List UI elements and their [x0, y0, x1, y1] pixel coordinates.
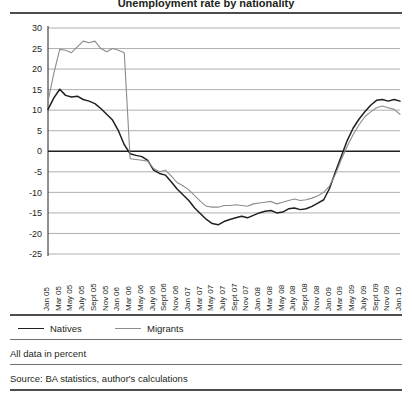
y-tick-label: 5	[37, 126, 42, 136]
y-tick-label: -10	[29, 188, 42, 198]
x-tick-label: Mar 06	[125, 286, 133, 311]
x-tick-label: May 07	[207, 285, 215, 311]
x-tick-label: May 06	[137, 285, 145, 311]
legend-item-natives[interactable]: Natives	[18, 318, 82, 338]
y-tick-label: -25	[29, 249, 42, 259]
y-tick-label: -5	[34, 167, 42, 177]
x-tick-label: Sept 08	[301, 283, 309, 311]
x-tick-label: Mar 05	[55, 286, 63, 311]
legend-top-rule	[10, 314, 402, 316]
x-tick-label: Jan 10	[395, 287, 403, 311]
figure-container: Unemployment rate by nationality 3025201…	[0, 0, 412, 399]
chart-plot-area: 302520151050-5-10-15-20-25	[0, 16, 412, 266]
legend-label: Natives	[50, 323, 82, 334]
x-tick-label: Mar 08	[266, 286, 274, 311]
y-axis-tick-labels: 302520151050-5-10-15-20-25	[29, 23, 42, 259]
y-tick-label: 25	[32, 44, 42, 54]
series-line-natives	[48, 89, 400, 225]
x-tick-label: Jan 07	[184, 287, 192, 311]
y-tick-label: 15	[32, 85, 42, 95]
legend-item-migrants[interactable]: Migrants	[115, 318, 183, 338]
x-tick-label: May 08	[278, 285, 286, 311]
line-chart-svg: 302520151050-5-10-15-20-25	[0, 16, 412, 266]
legend-line-swatch	[115, 328, 141, 329]
note-units-text: All data in percent	[10, 348, 86, 359]
y-tick-label: -15	[29, 208, 42, 218]
x-tick-label: May 05	[66, 285, 74, 311]
x-tick-label: Sept 05	[90, 283, 98, 311]
y-tick-label: 30	[32, 23, 42, 33]
y-tick-label: -20	[29, 229, 42, 239]
units-bottom-rule	[10, 364, 402, 365]
x-tick-label: July 05	[78, 286, 86, 311]
x-tick-label: July 08	[289, 286, 297, 311]
x-tick-label: Nov 07	[242, 286, 250, 311]
x-tick-label: Sept 06	[160, 283, 168, 311]
x-tick-label: Nov 09	[383, 286, 391, 311]
x-tick-label: Jan 08	[254, 287, 262, 311]
x-tick-label: Mar 09	[336, 286, 344, 311]
legend-label: Migrants	[147, 323, 183, 334]
x-axis-tick-labels: Jan 05Mar 05May 05July 05Sept 05Nov 05Ja…	[0, 263, 412, 311]
x-tick-label: Nov 08	[313, 286, 321, 311]
figure-title: Unemployment rate by nationality	[10, 0, 402, 10]
x-tick-label: Nov 06	[172, 286, 180, 311]
x-tick-label: Jan 05	[43, 287, 51, 311]
x-tick-label: May 09	[348, 285, 356, 311]
x-tick-label: Jan 09	[325, 287, 333, 311]
chart-legend: NativesMigrants	[10, 318, 402, 338]
x-tick-label: Sept 07	[231, 283, 239, 311]
y-tick-label: 10	[32, 105, 42, 115]
top-rule	[10, 12, 402, 14]
x-tick-label: Jan 06	[113, 287, 121, 311]
y-tick-label: 20	[32, 64, 42, 74]
note-source-text: Source: BA statistics, author's calculat…	[10, 373, 188, 384]
note-source: Source: BA statistics, author's calculat…	[10, 368, 402, 388]
legend-bottom-rule	[10, 339, 402, 340]
y-tick-label: 0	[37, 146, 42, 156]
x-tick-label: July 06	[149, 286, 157, 311]
x-tick-label: Sept 09	[372, 283, 380, 311]
x-tick-label: Nov 05	[102, 286, 110, 311]
x-tick-label: July 07	[219, 286, 227, 311]
legend-line-swatch	[18, 328, 44, 329]
x-tick-label: July 09	[360, 286, 368, 311]
series-line-migrants	[48, 41, 400, 207]
note-units: All data in percent	[10, 343, 402, 363]
bottom-rule	[10, 389, 402, 391]
x-tick-label: Mar 07	[196, 286, 204, 311]
